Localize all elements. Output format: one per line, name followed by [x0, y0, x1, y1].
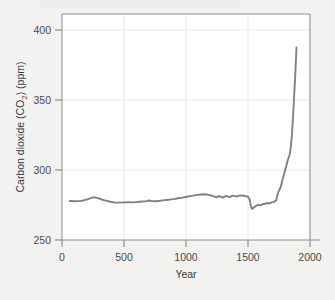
x-tick-label-0: 0: [59, 251, 65, 263]
y-axis-title-prefix: Carbon dioxide (CO: [14, 100, 26, 193]
x-tick-label-500: 500: [115, 251, 133, 263]
co2-chart-figure: 400 350 300 250 0 500 1000 1500 2000 Yea…: [0, 0, 335, 300]
x-axis-title: Year: [175, 268, 197, 280]
clipped-caption-artifact: [40, 0, 240, 7]
y-tick-label-300: 300: [33, 164, 51, 176]
y-axis-title-suffix: ) (ppm): [14, 61, 26, 95]
y-tick-label-250: 250: [33, 234, 51, 246]
x-tick-label-2000: 2000: [298, 251, 322, 263]
y-tick-label-400: 400: [33, 24, 51, 36]
y-tick-label-350: 350: [33, 94, 51, 106]
x-tick-label-1500: 1500: [236, 251, 260, 263]
chart-canvas: 400 350 300 250 0 500 1000 1500 2000 Yea…: [0, 0, 335, 300]
x-tick-label-1000: 1000: [174, 251, 198, 263]
